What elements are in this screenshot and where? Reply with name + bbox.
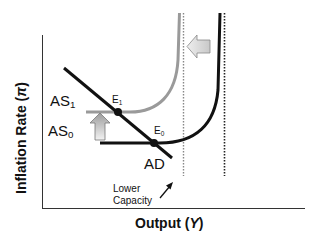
capacity-pointer-arrowhead-icon	[166, 182, 173, 190]
e1-label: E1	[112, 95, 122, 106]
e0-point	[150, 139, 158, 147]
e0-label: E0	[154, 126, 164, 137]
as0-curve	[100, 13, 220, 143]
capacity-pointer-line	[160, 186, 170, 198]
as1-label: AS1	[50, 93, 75, 110]
ad-label: AD	[144, 156, 165, 171]
lower-capacity-annotation: Lower Capacity	[113, 183, 152, 207]
as0-label: AS0	[48, 123, 73, 140]
up-arrow-icon	[90, 113, 110, 140]
e1-point	[114, 108, 122, 116]
diagram-canvas	[0, 0, 311, 241]
left-arrow-icon	[187, 35, 210, 58]
y-axis-title: Inflation Rate (π)	[14, 82, 28, 194]
x-axis-title: Output (Y)	[135, 216, 203, 230]
